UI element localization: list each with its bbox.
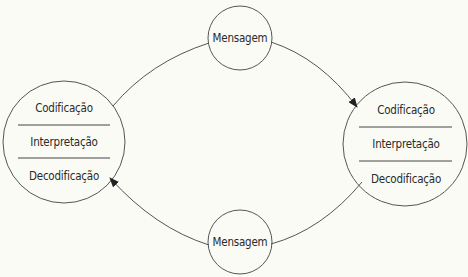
right-node-decoding-label: Decodificação (371, 172, 441, 186)
edge-bottom-message-to-left (110, 178, 209, 245)
right-node-encoding-label: Codificação (377, 103, 435, 117)
edge-top-message-to-right (271, 42, 357, 107)
bottom-message-label: Mensagem (212, 235, 267, 249)
left-node-encoding-label: Codificação (35, 101, 93, 115)
right-node-interpretation-label: Interpretação (372, 137, 439, 151)
edge-right-to-bottom-message (271, 182, 362, 244)
left-node-decoding-label: Decodificação (29, 169, 99, 183)
left-node-interpretation-label: Interpretação (30, 135, 97, 149)
edge-left-to-top-message (113, 43, 209, 106)
top-message-label: Mensagem (212, 31, 267, 45)
